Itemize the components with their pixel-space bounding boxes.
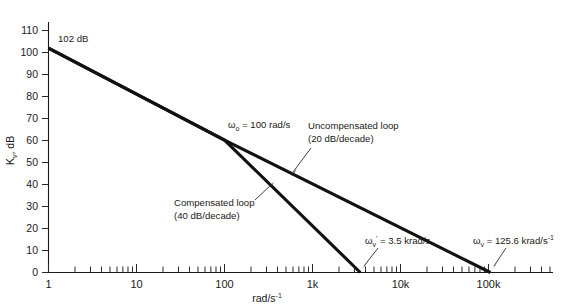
y-tick-labels: 0 10 20 30 40 50 60 70 80 90 100 110 bbox=[20, 24, 38, 278]
comp-crossover-leader-arrow-icon bbox=[362, 262, 369, 270]
y-tick-label-10: 10 bbox=[26, 244, 38, 256]
annotation-uncompensated-line2: (20 dB/decade) bbox=[308, 133, 374, 144]
uncomp-crossover-exponent: -1 bbox=[548, 234, 554, 241]
x-axis-title: rad/s-1 bbox=[252, 292, 282, 304]
y-tick-label-90: 90 bbox=[26, 68, 38, 80]
y-axis-title-units: , dB bbox=[4, 136, 16, 155]
x-axis-title-exponent: -1 bbox=[276, 292, 282, 299]
annotation-uncompensated-line1: Uncompensated loop bbox=[308, 120, 399, 131]
x-tick-label-100: 100 bbox=[215, 278, 233, 290]
annotation-uncompensated-crossover: ωv = 125.6 krad/s-1 bbox=[473, 234, 554, 248]
y-tick-label-110: 110 bbox=[21, 24, 38, 36]
y-tick-label-20: 20 bbox=[26, 222, 38, 234]
x-tick-label-1k: 1k bbox=[307, 278, 319, 290]
y-tick-label-70: 70 bbox=[26, 112, 38, 124]
y-tick-label-0: 0 bbox=[32, 266, 38, 278]
y-tick-label-30: 30 bbox=[26, 200, 38, 212]
x-tick-labels: 1 10 100 1k 10k 100k bbox=[45, 278, 500, 290]
y-tick-label-40: 40 bbox=[26, 178, 38, 190]
annotation-compensated-line1: Compensated loop bbox=[174, 197, 255, 208]
compensated-loop-curve bbox=[49, 48, 361, 272]
y-tick-label-80: 80 bbox=[26, 90, 38, 102]
annotation-compensated-line2: (40 dB/decade) bbox=[174, 210, 240, 221]
uncomp-crossover-text: = 125.6 krad/s bbox=[484, 235, 548, 246]
comp-crossover-text: = 3.5 krad/s bbox=[377, 235, 430, 246]
annotation-compensated-crossover: ωv' = 3.5 krad/s bbox=[365, 235, 431, 248]
comp-crossover-leader-line bbox=[364, 248, 378, 266]
comp-crossover-subscript: v bbox=[373, 241, 377, 248]
uncomp-crossover-leader-arrow-icon bbox=[492, 262, 499, 270]
uncompensated-leader-line bbox=[293, 148, 311, 172]
x-tick-label-10: 10 bbox=[130, 278, 142, 290]
x-tick-label-1: 1 bbox=[45, 278, 51, 290]
y-axis-title-group: Kv, dB bbox=[4, 136, 18, 165]
compensated-leader-line bbox=[255, 184, 272, 200]
y-tick-label-100: 100 bbox=[20, 46, 38, 58]
x-major-tick-marks bbox=[49, 264, 489, 273]
svg-text:Kv, dB: Kv, dB bbox=[4, 136, 18, 165]
y-tick-label-50: 50 bbox=[26, 156, 38, 168]
x-axis-title-text: rad/s bbox=[252, 292, 275, 304]
annotation-start-gain: 102 dB bbox=[58, 33, 88, 44]
y-axis-title-symbol: K bbox=[4, 158, 16, 165]
annotation-corner-frequency: ωo = 100 rad/s bbox=[228, 119, 291, 132]
y-tick-marks bbox=[42, 31, 49, 273]
x-tick-label-100k: 100k bbox=[477, 278, 501, 290]
bode-plot-figure: 0 10 20 30 40 50 60 70 80 90 100 110 Kv,… bbox=[0, 0, 564, 306]
bode-plot-svg: 0 10 20 30 40 50 60 70 80 90 100 110 Kv,… bbox=[0, 0, 564, 306]
corner-freq-text: = 100 rad/s bbox=[239, 119, 290, 130]
x-tick-label-10k: 10k bbox=[392, 278, 410, 290]
y-tick-label-60: 60 bbox=[26, 134, 38, 146]
uncomp-crossover-leader-line bbox=[494, 248, 506, 266]
